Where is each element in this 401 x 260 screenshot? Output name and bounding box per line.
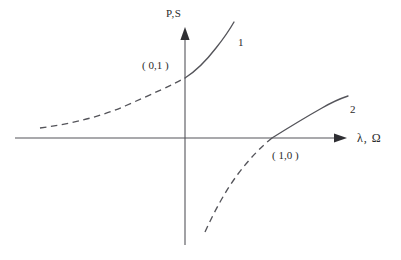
figure-container: P,S λ, Ω ( 0,1 ) ( 1,0 ) 1 2 bbox=[0, 0, 401, 260]
curve-1-label: 1 bbox=[238, 37, 244, 48]
curve-1-solid-branch bbox=[185, 22, 234, 78]
curve-2-solid-branch bbox=[272, 96, 348, 138]
point-label-0-1: ( 0,1 ) bbox=[142, 60, 169, 71]
x-axis bbox=[15, 133, 347, 142]
plot-canvas bbox=[0, 0, 401, 260]
curve-2-dashed-branch bbox=[205, 138, 272, 232]
y-axis-label: P,S bbox=[166, 8, 181, 19]
point-label-1-0: ( 1,0 ) bbox=[272, 150, 299, 161]
curve-1-dashed-branch bbox=[40, 78, 185, 128]
curve-2-label: 2 bbox=[350, 104, 356, 115]
x-axis-label: λ, Ω bbox=[357, 132, 382, 144]
y-axis-arrowhead bbox=[180, 27, 189, 40]
y-axis bbox=[180, 27, 189, 245]
x-axis-arrowhead bbox=[334, 133, 347, 142]
